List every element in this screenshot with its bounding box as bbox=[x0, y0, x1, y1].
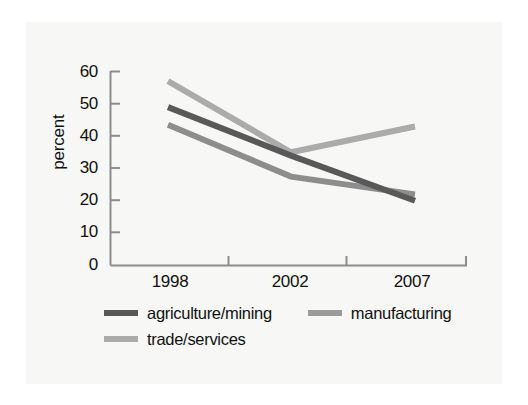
chart-figure: percent 60 50 40 30 20 10 0 1998 2002 20… bbox=[0, 0, 528, 405]
legend-label-trade-services: trade/services bbox=[147, 330, 246, 349]
y-axis-ticks bbox=[111, 72, 121, 233]
legend-row-1: agriculture/mining manufacturing bbox=[104, 300, 484, 326]
series-line-agriculture-mining bbox=[168, 107, 415, 201]
legend-swatch-icon-trade-services bbox=[104, 336, 138, 342]
x-tick-label-2002: 2002 bbox=[250, 272, 330, 292]
chart-legend: agriculture/mining manufacturing trade/s… bbox=[104, 300, 484, 352]
x-tick-label-1998: 1998 bbox=[130, 272, 210, 292]
x-tick-label-2007: 2007 bbox=[372, 272, 452, 292]
y-tick-label-30: 30 bbox=[52, 158, 98, 178]
legend-label-manufacturing: manufacturing bbox=[351, 304, 452, 323]
legend-swatch-icon-manufacturing bbox=[308, 310, 342, 316]
y-tick-label-20: 20 bbox=[52, 190, 98, 210]
legend-label-agriculture-mining: agriculture/mining bbox=[147, 304, 272, 323]
y-tick-label-0: 0 bbox=[52, 255, 98, 275]
legend-row-2: trade/services bbox=[104, 326, 484, 352]
legend-item-trade-services[interactable]: trade/services bbox=[104, 330, 246, 349]
legend-item-agriculture-mining[interactable]: agriculture/mining bbox=[104, 304, 272, 323]
x-axis-ticks bbox=[229, 256, 467, 266]
y-tick-label-40: 40 bbox=[52, 126, 98, 146]
legend-swatch-icon-agriculture-mining bbox=[104, 310, 138, 316]
y-tick-label-60: 60 bbox=[52, 62, 98, 82]
y-tick-label-50: 50 bbox=[52, 94, 98, 114]
y-tick-label-10: 10 bbox=[52, 222, 98, 242]
legend-item-manufacturing[interactable]: manufacturing bbox=[308, 304, 452, 323]
